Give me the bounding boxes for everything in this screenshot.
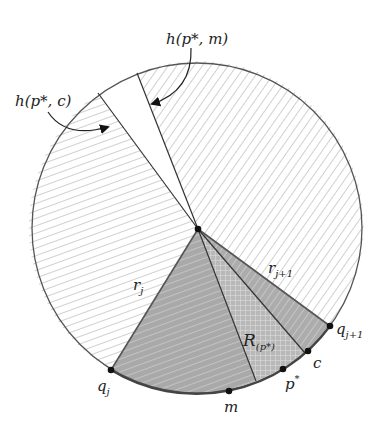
label-q-j: qj — [97, 377, 110, 397]
point-c — [305, 348, 312, 355]
label-h-c: h(p*, c) — [15, 92, 72, 110]
point-q-j1 — [327, 323, 334, 330]
label-p-star: p* — [285, 373, 300, 393]
label-m: m — [224, 398, 238, 416]
point-center — [195, 226, 202, 233]
point-q-j — [108, 367, 115, 374]
point-m — [226, 388, 233, 395]
label-q-j1: qj+1 — [336, 320, 363, 340]
point-p-star — [280, 366, 287, 373]
label-h-m: h(p*, m) — [166, 30, 228, 48]
geometry-diagram: h(p*, c) h(p*, m) rj rj+1 R(p*) qj m p* … — [0, 0, 386, 431]
label-c: c — [313, 354, 322, 372]
